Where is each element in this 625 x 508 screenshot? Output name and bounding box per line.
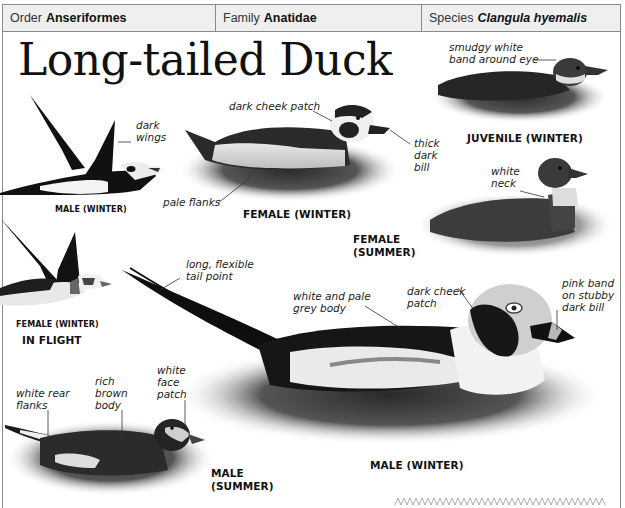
annotation-white-face-patch: white face patch — [157, 364, 187, 400]
male-summer-illustration — [5, 419, 215, 496]
duck-illustrations — [0, 0, 625, 508]
caption-male-summer: MALE (SUMMER) — [211, 467, 274, 493]
female-winter-flight-illustration — [0, 218, 112, 306]
annotation-dark-cheek-patch-male: dark cheek patch — [407, 285, 465, 309]
annotation-white-pale-grey-body: white and pale grey body — [293, 290, 371, 314]
caption-female-winter-flight: FEMALE (WINTER) — [16, 318, 99, 331]
caption-male-winter-flight: MALE (WINTER) — [55, 203, 127, 216]
zigzag-decoration — [395, 498, 605, 505]
annotation-white-neck: white neck — [491, 165, 520, 189]
caption-female-winter: FEMALE (WINTER) — [243, 208, 351, 221]
caption-male-winter: MALE (WINTER) — [370, 459, 464, 472]
female-winter-illustration — [178, 105, 402, 202]
annotation-pale-flanks: pale flanks — [163, 196, 220, 208]
annotation-white-rear-flanks: white rear flanks — [16, 387, 70, 411]
caption-female-summer: FEMALE (SUMMER) — [353, 233, 416, 259]
caption-juvenile-winter: JUVENILE (WINTER) — [467, 132, 583, 145]
annotation-dark-cheek-patch-female: dark cheek patch — [229, 100, 320, 112]
annotation-rich-brown-body: rich brown body — [95, 375, 128, 411]
label-in-flight: IN FLIGHT — [22, 334, 82, 347]
annotation-smudgy-white-band: smudgy white band around eye — [449, 41, 538, 65]
juvenile-winter-illustration — [430, 58, 610, 123]
annotation-thick-dark-bill: thick dark bill — [414, 137, 440, 173]
annotation-dark-wings: dark wings — [136, 119, 166, 143]
male-winter-flight-illustration — [0, 95, 161, 195]
annotation-pink-band-bill: pink band on stubby dark bill — [562, 277, 614, 313]
annotation-long-flexible-tail: long, flexible tail point — [186, 258, 254, 282]
